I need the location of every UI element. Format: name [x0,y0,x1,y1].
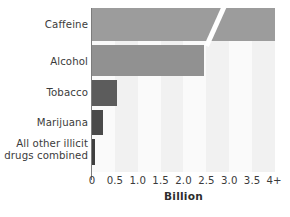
x-tick-3-5: 3.5 [244,174,261,187]
bars-layer [92,8,275,172]
x-axis-title: Billion [92,190,275,202]
x-tick-0-5: 0.5 [107,174,124,187]
category-label-tobacco: Tobacco [0,87,88,99]
bar-alcohol[interactable] [92,45,204,76]
x-tick-4-plus: 4+ [266,174,281,187]
x-tick-2-0: 2.0 [175,174,192,187]
x-tick-1-5: 1.5 [152,174,169,187]
category-label-all-other-illicit-drugs: All other illicit drugs combined [0,138,88,161]
category-label-caffeine: Caffeine [0,19,88,31]
bar-caffeine[interactable] [92,8,275,41]
x-tick-3-0: 3.0 [221,174,238,187]
bar-marijuana[interactable] [92,110,103,135]
y-axis-line [91,8,92,180]
category-label-marijuana: Marijuana [0,117,88,129]
x-tick-0: 0 [89,174,96,187]
x-tick-2-5: 2.5 [198,174,215,187]
y-axis-category-labels: Caffeine Alcohol Tobacco Marijuana All o… [0,0,88,172]
x-axis-tick-labels: 0 0.5 1.0 1.5 2.0 2.5 3.0 3.5 4+ [0,174,290,190]
category-label-alcohol: Alcohol [0,56,88,68]
plot-area [92,8,275,172]
bar-chart: Caffeine Alcohol Tobacco Marijuana All o… [0,0,290,217]
bar-all-other-illicit-drugs[interactable] [92,139,95,165]
x-tick-1-0: 1.0 [130,174,147,187]
bar-tobacco[interactable] [92,80,117,106]
